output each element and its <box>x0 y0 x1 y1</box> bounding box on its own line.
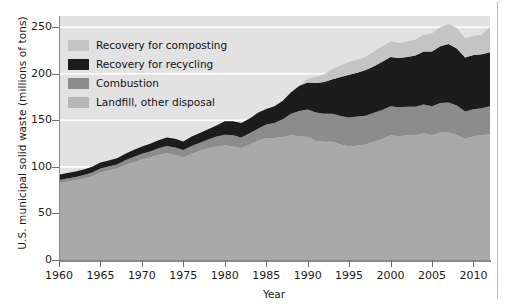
chart-figure: U.S. municipal solid waste (millions of … <box>0 0 512 306</box>
x-tick-mark <box>100 260 101 267</box>
legend-swatch-icon <box>68 40 89 51</box>
x-tick-label: 1965 <box>78 269 122 282</box>
figure-right-border <box>497 2 498 298</box>
x-tick-mark <box>183 260 184 267</box>
legend-label: Recovery for recycling <box>96 59 213 70</box>
x-tick-mark <box>225 260 226 267</box>
legend-label: Recovery for composting <box>96 40 227 51</box>
x-tick-mark <box>349 260 350 267</box>
x-tick-label: 1960 <box>37 269 81 282</box>
x-axis-title: Year <box>58 288 490 300</box>
x-tick-label: 2010 <box>451 269 495 282</box>
legend-item: Landfill, other disposal <box>68 94 227 111</box>
x-tick-mark <box>473 260 474 267</box>
legend-swatch-icon <box>68 97 89 108</box>
legend-item: Combustion <box>68 75 227 92</box>
x-tick-label: 1975 <box>161 269 205 282</box>
legend-label: Landfill, other disposal <box>96 97 215 108</box>
legend-swatch-icon <box>68 59 89 70</box>
x-tick-mark <box>59 260 60 267</box>
legend-swatch-icon <box>68 78 89 89</box>
x-tick-label: 1990 <box>286 269 330 282</box>
x-tick-mark <box>142 260 143 267</box>
x-tick-label: 2005 <box>410 269 454 282</box>
x-tick-mark <box>391 260 392 267</box>
legend-item: Recovery for composting <box>68 37 227 54</box>
x-tick-label: 1985 <box>244 269 288 282</box>
x-tick-mark <box>432 260 433 267</box>
x-tick-mark <box>308 260 309 267</box>
x-tick-mark <box>266 260 267 267</box>
x-tick-label: 2000 <box>369 269 413 282</box>
chart-legend: Recovery for compostingRecovery for recy… <box>68 37 227 113</box>
x-axis-line <box>59 260 491 262</box>
x-tick-label: 1980 <box>203 269 247 282</box>
x-tick-label: 1970 <box>120 269 164 282</box>
x-tick-label: 1995 <box>327 269 371 282</box>
legend-item: Recovery for recycling <box>68 56 227 73</box>
legend-label: Combustion <box>96 78 159 89</box>
